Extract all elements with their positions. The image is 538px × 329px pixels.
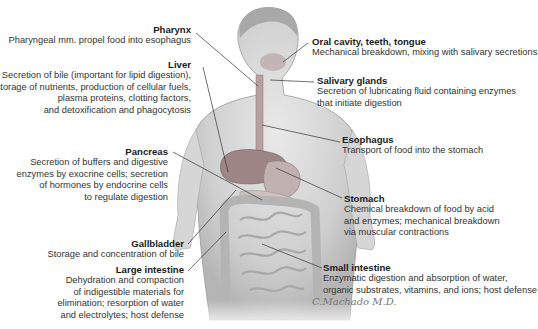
oral-cavity-region: [260, 53, 286, 71]
digestive-system-diagram: Pharynx Pharyngeal mm. propel food into …: [0, 0, 538, 329]
label-oral-cavity: Oral cavity, teeth, tongue Mechanical br…: [312, 36, 537, 59]
label-liver: Liver Secretion of bile (important for l…: [0, 59, 191, 116]
esophagus-tube: [256, 75, 263, 155]
label-small-intestine: Small intestine Enzymatic digestion and …: [323, 262, 537, 296]
artist-signature: C.Machado M.D.: [312, 296, 397, 307]
label-stomach: Stomach Chemical breakdown of food by ac…: [344, 193, 500, 239]
label-pharynx: Pharynx Pharyngeal mm. propel food into …: [9, 24, 191, 47]
label-salivary-glands: Salivary glands Secretion of lubricating…: [317, 75, 516, 109]
label-large-intestine: Large intestine Dehydration and compacti…: [57, 264, 184, 321]
label-gallbladder: Gallbladder Storage and concentration of…: [48, 238, 184, 261]
label-pancreas: Pancreas Secretion of buffers and digest…: [17, 146, 168, 203]
label-esophagus: Esophagus Transport of food into the sto…: [342, 134, 483, 157]
